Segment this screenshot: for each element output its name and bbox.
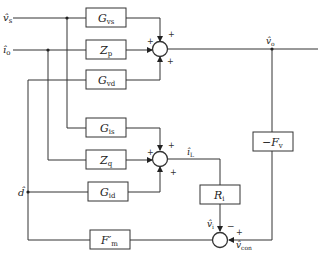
fm-label: F′m [100,234,118,248]
gis-label: Gis [100,122,115,136]
sign-plus: + [236,228,243,237]
zq-label: Zq [99,154,113,168]
ri-label: Ri [213,189,225,203]
input-d-label: d̂ [18,186,26,198]
vo-label: v̂o [266,36,275,47]
sign-plus: + [168,30,175,39]
fv-label: −Fv [262,136,283,150]
vcon-label: v̂con [236,240,252,251]
vi-label: v̂i [207,219,214,230]
sign-plus: + [168,141,175,150]
il-label: îL [187,147,194,158]
zp-label: Zp [99,44,113,58]
gvd-label: Gvd [98,74,116,88]
gvs-label: Gvs [98,12,115,26]
gid-label: Gid [100,186,116,200]
sign-plus: + [170,168,177,177]
block-diagram: v̂s îo d̂ Gvs Zp Gvd Gis Zq Gid F′m Ri −… [0,0,318,257]
sign-minus: − [227,221,235,231]
input-io-label: îo [3,44,10,57]
sign-plus: + [147,148,154,157]
sign-plus: + [167,57,174,66]
sign-plus: + [147,37,154,46]
input-vs-label: v̂s [3,12,13,25]
